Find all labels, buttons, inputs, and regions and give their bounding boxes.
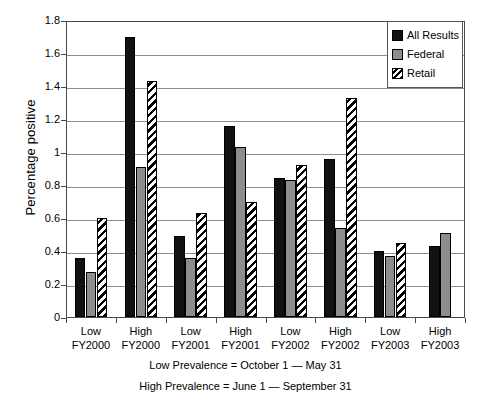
bar-all-4 — [274, 178, 285, 317]
x-group-label: HighFY2003 — [400, 325, 480, 352]
footnote-high-prevalence: High Prevalence = June 1 — September 31 — [0, 380, 491, 392]
x-tick-mark — [315, 318, 316, 323]
bar-federal-7 — [440, 233, 451, 317]
x-tick-mark — [266, 318, 267, 323]
bar-all-3 — [224, 126, 235, 317]
legend-swatch-icon-all-results — [392, 30, 403, 41]
y-tick-label: 0.4 — [20, 246, 60, 257]
legend-item-federal: Federal — [392, 45, 459, 64]
y-tick-label: 0.2 — [20, 279, 60, 290]
legend-swatch-icon-federal — [392, 49, 403, 60]
bar-federal-3 — [235, 147, 246, 317]
x-tick-mark — [465, 318, 466, 323]
x-group-label-line2: FY2003 — [400, 339, 480, 353]
bar-chart: Percentage positive 1.81.61.41.210.80.60… — [0, 0, 491, 404]
y-tick-label: 1.6 — [20, 48, 60, 59]
legend: All Results Federal Retail — [387, 21, 463, 88]
x-tick-mark — [66, 318, 67, 323]
bar-retail-3 — [246, 202, 257, 318]
y-tick-label: 1.8 — [20, 15, 60, 26]
x-group-label-line1: High — [400, 325, 480, 339]
bar-all-6 — [374, 251, 385, 317]
bar-retail-4 — [296, 165, 307, 317]
legend-label-all-results: All Results — [407, 30, 459, 41]
bar-retail-5 — [346, 98, 357, 317]
footnote-low-prevalence: Low Prevalence = October 1 — May 31 — [0, 359, 491, 371]
y-tick-label: 0.8 — [20, 180, 60, 191]
y-tick-label: 0.6 — [20, 213, 60, 224]
bar-federal-6 — [385, 256, 396, 317]
bar-retail-2 — [196, 213, 207, 317]
y-tick-label: 1.4 — [20, 81, 60, 92]
legend-label-federal: Federal — [407, 49, 444, 60]
y-tick-label: 1 — [20, 147, 60, 158]
legend-item-retail: Retail — [392, 64, 459, 83]
legend-label-retail: Retail — [407, 68, 435, 79]
bar-retail-1 — [147, 81, 158, 317]
bar-federal-5 — [335, 228, 346, 317]
bar-federal-4 — [285, 180, 296, 317]
x-tick-mark — [365, 318, 366, 323]
bar-federal-2 — [185, 258, 196, 317]
bar-federal-1 — [136, 167, 147, 317]
legend-item-all-results: All Results — [392, 26, 459, 45]
y-tick-label: 1.2 — [20, 114, 60, 125]
x-tick-mark — [415, 318, 416, 323]
legend-swatch-icon-retail — [392, 68, 403, 79]
bar-all-5 — [324, 159, 335, 317]
x-tick-mark — [166, 318, 167, 323]
bar-retail-0 — [97, 218, 108, 317]
bar-all-1 — [125, 37, 136, 318]
x-tick-mark — [116, 318, 117, 323]
bar-all-0 — [75, 258, 86, 317]
bar-all-7 — [429, 246, 440, 317]
bar-retail-6 — [396, 243, 407, 317]
bar-all-2 — [174, 236, 185, 317]
x-tick-mark — [216, 318, 217, 323]
bar-federal-0 — [86, 272, 97, 317]
y-tick-label: 0 — [20, 312, 60, 323]
